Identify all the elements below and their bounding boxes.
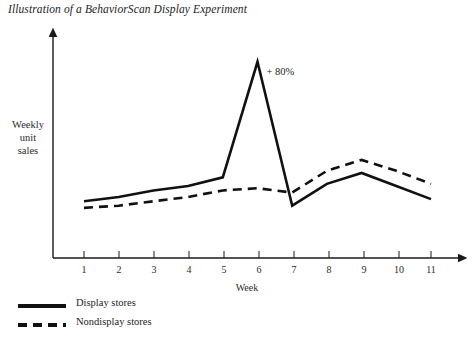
x-axis-tick-labels: 1 2 3 4 5 6 7 8 9 10 11	[82, 264, 436, 275]
x-axis-label: Week	[236, 282, 259, 293]
x-tick-label: 9	[362, 264, 367, 275]
x-tick-label: 5	[222, 264, 227, 275]
series-line-nondisplay-stores	[84, 160, 431, 208]
x-tick-label: 7	[292, 264, 297, 275]
x-axis-ticks	[84, 251, 431, 258]
chart-legend: Display stores Nondisplay stores	[0, 296, 476, 348]
plot-area: 1 2 3 4 5 6 7 8 9 10 11 Week + 80%	[0, 0, 476, 296]
series-line-display-stores	[84, 62, 431, 206]
x-tick-label: 3	[152, 264, 157, 275]
x-tick-label: 6	[257, 264, 262, 275]
x-tick-label: 1	[82, 264, 87, 275]
x-tick-label: 2	[117, 264, 122, 275]
lift-annotation: + 80%	[267, 66, 295, 77]
legend-label: Display stores	[76, 297, 136, 308]
legend-swatch-solid-icon	[18, 304, 66, 308]
x-tick-label: 4	[187, 264, 192, 275]
x-tick-label: 10	[394, 264, 404, 275]
chart-figure: Illustration of a BehaviorScan Display E…	[0, 0, 476, 348]
x-tick-label: 8	[327, 264, 332, 275]
x-tick-label: 11	[426, 264, 436, 275]
legend-label: Nondisplay stores	[76, 316, 152, 327]
legend-swatch-dashed-icon	[18, 323, 66, 327]
